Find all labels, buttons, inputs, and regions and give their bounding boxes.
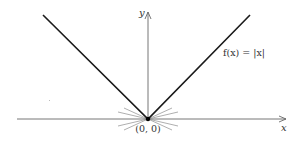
x-axis-label: x bbox=[281, 122, 287, 133]
function-curve bbox=[43, 15, 250, 119]
absolute-value-graph: y x f(x) = |x| (0, 0) bbox=[0, 0, 301, 143]
function-label: f(x) = |x| bbox=[223, 47, 265, 59]
y-axis-label: y bbox=[138, 7, 145, 18]
origin-label: (0, 0) bbox=[135, 123, 161, 134]
speck bbox=[49, 100, 50, 101]
origin-point bbox=[146, 117, 150, 121]
